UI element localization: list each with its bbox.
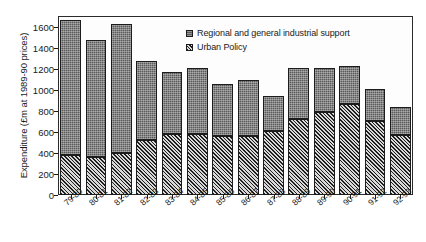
y-axis-tick-label: 1000 [33, 84, 54, 95]
bar-segment-regional-support[interactable] [263, 96, 284, 131]
bar-group[interactable] [111, 24, 132, 195]
bar-segment-regional-support[interactable] [314, 68, 335, 112]
bar-segment-regional-support[interactable] [339, 66, 360, 104]
bar-segment-regional-support[interactable] [162, 72, 183, 134]
bar-segment-urban-policy[interactable] [365, 121, 386, 195]
bar-segment-urban-policy[interactable] [390, 135, 411, 195]
bar-group[interactable] [86, 40, 107, 195]
bar-segment-urban-policy[interactable] [339, 104, 360, 195]
y-axis-tick-label: 400 [38, 147, 54, 158]
y-axis-tick-mark [54, 174, 58, 175]
y-axis-tick-mark [54, 195, 58, 196]
bar-segment-regional-support[interactable] [136, 61, 157, 140]
bar-group[interactable] [136, 61, 157, 195]
bar-chart: Expenditure (£m at 1989-90 prices) 02004… [0, 0, 426, 242]
stipple-swatch-icon [186, 30, 193, 37]
y-axis-tick-label: 600 [38, 126, 54, 137]
bar-segment-regional-support[interactable] [238, 80, 259, 135]
bar-group[interactable] [339, 66, 360, 195]
y-axis-tick-label: 1200 [33, 63, 54, 74]
legend-label-urban: Urban Policy [197, 42, 247, 52]
y-axis-tick-labels: 02004006008001000120014001600 [18, 0, 54, 242]
bar-segment-urban-policy[interactable] [187, 134, 208, 195]
chart-legend: Regional and general industrial support … [186, 28, 350, 56]
bar-segment-urban-policy[interactable] [288, 119, 309, 195]
legend-item-regional: Regional and general industrial support [186, 28, 350, 38]
y-axis-tick-mark [54, 111, 58, 112]
bar-segment-regional-support[interactable] [390, 107, 411, 135]
bar-segment-urban-policy[interactable] [314, 112, 335, 195]
bar-segment-regional-support[interactable] [187, 68, 208, 134]
y-axis-tick-mark [54, 90, 58, 91]
y-axis-tick-mark [54, 69, 58, 70]
bar-segment-regional-support[interactable] [60, 20, 81, 155]
bar-group[interactable] [60, 20, 81, 195]
bar-group[interactable] [187, 68, 208, 195]
y-axis-tick-label: 1400 [33, 42, 54, 53]
bar-segment-regional-support[interactable] [212, 84, 233, 136]
bar-segment-regional-support[interactable] [86, 40, 107, 157]
bar-group[interactable] [263, 96, 284, 195]
bar-segment-regional-support[interactable] [288, 68, 309, 119]
bar-group[interactable] [162, 72, 183, 195]
y-axis-tick-mark [54, 132, 58, 133]
bar-group[interactable] [288, 68, 309, 195]
bar-group[interactable] [212, 84, 233, 195]
bar-group[interactable] [365, 89, 386, 195]
y-axis-tick-mark [54, 27, 58, 28]
y-axis-tick-mark [54, 48, 58, 49]
y-axis-tick-mark [54, 153, 58, 154]
bar-segment-regional-support[interactable] [111, 24, 132, 152]
legend-item-urban: Urban Policy [186, 42, 350, 52]
y-axis-tick-label: 200 [38, 168, 54, 179]
bar-segment-regional-support[interactable] [365, 89, 386, 122]
hatch-swatch-icon [186, 44, 193, 51]
bar-group[interactable] [238, 80, 259, 195]
y-axis-tick-label: 1600 [33, 21, 54, 32]
bar-group[interactable] [390, 107, 411, 195]
legend-label-regional: Regional and general industrial support [197, 28, 350, 38]
bar-group[interactable] [314, 68, 335, 195]
y-axis-tick-label: 800 [38, 105, 54, 116]
